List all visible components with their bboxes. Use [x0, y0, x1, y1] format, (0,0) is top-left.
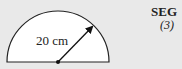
radius-label: 20 cm	[36, 33, 68, 48]
center-point	[56, 60, 60, 64]
marks-label: (3)	[160, 18, 174, 33]
